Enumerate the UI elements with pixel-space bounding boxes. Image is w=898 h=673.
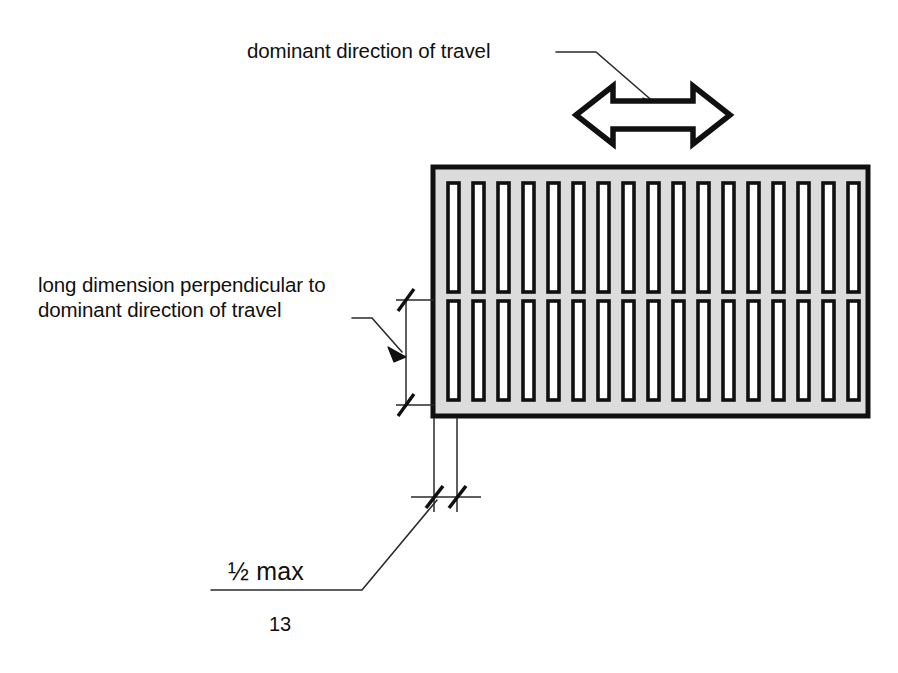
label-half-max: ½ max	[228, 556, 304, 587]
leader-long-dimension	[352, 318, 406, 362]
grate-slot-row-bottom	[448, 301, 859, 400]
leader-arrowhead-icon	[388, 347, 406, 362]
label-long-dimension-line2: dominant direction of travel	[38, 297, 326, 322]
double-headed-arrow-icon	[576, 86, 730, 144]
grate-body	[433, 167, 868, 416]
diagram-drawing	[0, 0, 898, 673]
slot-width-dimension	[411, 418, 481, 512]
label-dominant-direction-of-travel: dominant direction of travel	[247, 38, 490, 63]
figure-canvas: dominant direction of travel long dimens…	[0, 0, 898, 673]
label-long-dimension-line1: long dimension perpendicular to	[38, 273, 326, 296]
grate-slot-row-top	[448, 183, 859, 292]
figure-number: 13	[269, 612, 291, 636]
label-long-dimension-perpendicular: long dimension perpendicular to dominant…	[38, 272, 326, 322]
